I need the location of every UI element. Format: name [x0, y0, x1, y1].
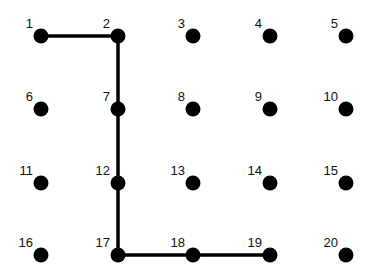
dot-label: 14: [248, 163, 262, 178]
dot-label: 17: [96, 235, 110, 250]
dot-1: 1: [26, 16, 49, 44]
dot-marker: [263, 102, 278, 117]
dot-marker: [34, 29, 49, 44]
dot-label: 20: [324, 235, 338, 250]
dot-label: 9: [255, 89, 262, 104]
dot-marker: [339, 248, 354, 263]
dot-marker: [339, 29, 354, 44]
dots: 1234567891011121314151617181920: [19, 16, 354, 263]
connecting-path: [41, 36, 270, 255]
path-line: [41, 36, 270, 255]
dot-label: 13: [171, 163, 185, 178]
dot-5: 5: [331, 16, 354, 44]
dot-marker: [186, 248, 201, 263]
dot-16: 16: [19, 235, 49, 263]
dot-label: 4: [255, 16, 262, 31]
dot-marker: [186, 29, 201, 44]
dot-marker: [263, 248, 278, 263]
dot-label: 16: [19, 235, 33, 250]
dot-label: 11: [20, 163, 34, 178]
dot-label: 2: [103, 16, 110, 31]
dot-label: 15: [324, 163, 338, 178]
dot-4: 4: [255, 16, 278, 44]
dot-grid-diagram: 1234567891011121314151617181920: [0, 0, 378, 278]
dot-marker: [34, 248, 49, 263]
dot-3: 3: [178, 16, 201, 44]
dot-7: 7: [103, 89, 126, 117]
dot-label: 3: [178, 16, 185, 31]
dot-label: 1: [26, 16, 33, 31]
dot-marker: [186, 176, 201, 191]
dot-12: 12: [96, 163, 126, 191]
dot-8: 8: [178, 89, 201, 117]
dot-18: 18: [171, 235, 201, 263]
dot-15: 15: [324, 163, 354, 191]
dot-label: 7: [103, 89, 110, 104]
dot-marker: [34, 102, 49, 117]
dot-label: 10: [324, 89, 338, 104]
dot-label: 19: [248, 235, 262, 250]
dot-label: 18: [171, 235, 185, 250]
dot-label: 12: [96, 163, 110, 178]
dot-marker: [263, 176, 278, 191]
dot-13: 13: [171, 163, 201, 191]
dot-17: 17: [96, 235, 126, 263]
dot-marker: [339, 176, 354, 191]
dot-marker: [339, 102, 354, 117]
dot-9: 9: [255, 89, 278, 117]
dot-marker: [186, 102, 201, 117]
dot-label: 5: [331, 16, 338, 31]
dot-marker: [111, 176, 126, 191]
dot-11: 11: [20, 163, 49, 191]
dot-marker: [111, 248, 126, 263]
dot-marker: [111, 102, 126, 117]
dot-2: 2: [103, 16, 126, 44]
dot-14: 14: [248, 163, 278, 191]
dot-10: 10: [324, 89, 354, 117]
dot-marker: [111, 29, 126, 44]
dot-label: 8: [178, 89, 185, 104]
dot-marker: [34, 176, 49, 191]
dot-20: 20: [324, 235, 354, 263]
dot-6: 6: [26, 89, 49, 117]
dot-19: 19: [248, 235, 278, 263]
dot-marker: [263, 29, 278, 44]
dot-label: 6: [26, 89, 33, 104]
